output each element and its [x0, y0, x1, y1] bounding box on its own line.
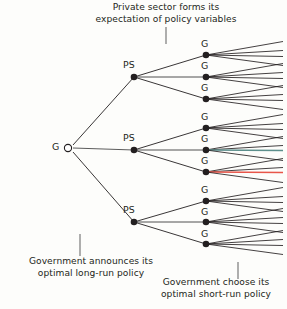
root-node-marker[interactable]	[64, 144, 71, 151]
g-node-marker[interactable]	[203, 169, 210, 176]
edge-ps2-g6	[134, 150, 206, 172]
g-node-label-2: G	[201, 61, 208, 71]
edge-ps1-g3	[134, 77, 206, 99]
stage-one-branches	[73, 77, 134, 222]
g-node-marker[interactable]	[203, 52, 210, 59]
tree-node-markers	[131, 52, 210, 248]
ps-node-marker[interactable]	[131, 147, 138, 154]
caption-private-sector: Private sector forms its expectation of …	[86, 2, 246, 25]
stage-two-branches	[134, 55, 206, 244]
ps-node-label-2: PS	[123, 133, 135, 143]
terminal-branch	[206, 172, 283, 183]
policy-tree-figure: G PS PS PS G G G G G G G G G Private sec…	[0, 0, 287, 309]
g-node-label-5: G	[201, 134, 208, 144]
ps-node-marker[interactable]	[131, 219, 138, 226]
edge-ps1-g1	[134, 55, 206, 77]
g-node-marker[interactable]	[203, 241, 210, 248]
ps-node-label-3: PS	[123, 205, 135, 215]
stage-three-branches	[206, 42, 283, 255]
terminal-branch	[206, 150, 283, 161]
g-node-marker[interactable]	[203, 96, 210, 103]
terminal-branch	[206, 150, 283, 151]
terminal-branch	[206, 172, 283, 173]
g-node-marker[interactable]	[203, 198, 210, 205]
g-node-label-4: G	[201, 112, 208, 122]
root-node-label: G	[52, 142, 59, 152]
edge-root-to-ps-2	[73, 148, 134, 150]
g-node-marker[interactable]	[203, 125, 210, 132]
caption-government-long-run: Government announces its optimal long-ru…	[16, 256, 166, 279]
g-node-label-9: G	[201, 229, 208, 239]
g-node-label-1: G	[201, 39, 208, 49]
g-node-label-7: G	[201, 185, 208, 195]
g-node-marker[interactable]	[203, 74, 210, 81]
edge-ps3-g7	[134, 201, 206, 222]
label-connector-ticks	[80, 27, 238, 279]
ps-node-label-1: PS	[123, 60, 135, 70]
caption-government-short-run: Government choose its optimal short-run …	[146, 277, 286, 300]
g-node-marker[interactable]	[203, 219, 210, 226]
edge-ps3-g9	[134, 222, 206, 244]
g-node-label-3: G	[201, 83, 208, 93]
g-node-label-8: G	[201, 207, 208, 217]
g-node-label-6: G	[201, 156, 208, 166]
edge-ps2-g4	[134, 128, 206, 150]
ps-node-marker[interactable]	[131, 74, 138, 81]
g-node-marker[interactable]	[203, 147, 210, 154]
